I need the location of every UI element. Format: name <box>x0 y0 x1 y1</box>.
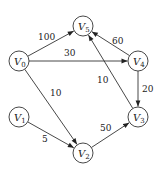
edge-v1-v2 <box>28 122 74 148</box>
edge-weight-label: 100 <box>38 32 55 42</box>
node-v3: V3 <box>128 107 148 127</box>
edge-weight-label: 60 <box>112 36 124 46</box>
edge-arrow <box>25 69 77 144</box>
edge-v0-v2 <box>25 69 77 144</box>
edge-weight-label: 10 <box>50 88 62 98</box>
edge-arrow <box>92 32 130 56</box>
edge-weight-label: 20 <box>142 84 154 94</box>
node-v0: V0 <box>9 51 29 71</box>
edge-v3-v5 <box>88 35 132 108</box>
edge-v4-v5 <box>92 32 130 56</box>
edge-weight-label: 30 <box>64 48 76 58</box>
node-v4: V4 <box>128 51 148 71</box>
nodes-layer: V0V1V2V3V4V5 <box>9 16 148 163</box>
edge-weight-label: 5 <box>42 134 48 144</box>
edge-arrow <box>88 35 132 108</box>
edges-layer <box>25 31 138 148</box>
node-v2: V2 <box>73 143 93 163</box>
node-v1: V1 <box>9 107 29 127</box>
node-v5: V5 <box>73 16 93 36</box>
edge-weight-label: 50 <box>100 123 112 133</box>
edge-weight-label: 10 <box>97 75 109 85</box>
directed-graph: 1003010550602010 V0V1V2V3V4V5 <box>0 0 162 174</box>
edge-arrow <box>28 122 74 148</box>
